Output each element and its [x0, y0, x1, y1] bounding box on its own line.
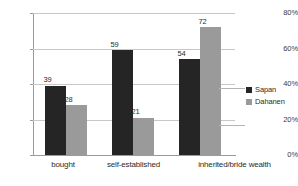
- legend-item-dahanen[interactable]: Dahanen: [246, 97, 285, 106]
- legend-leader-line-bottom: [219, 125, 245, 126]
- bar-dahanen-bought: [66, 105, 87, 155]
- legend-leader-line-top: [219, 88, 245, 89]
- bar-sapan-self-established: [112, 50, 133, 155]
- legend-label-dahanen: Dahanen: [255, 97, 285, 106]
- legend-item-sapan[interactable]: Sapan: [246, 85, 285, 94]
- legend: Sapan Dahanen: [246, 85, 285, 109]
- x-axis-line: [33, 155, 236, 156]
- bar-value-sapan-self-established: 59: [104, 41, 125, 49]
- bar-chart: 80% 60% 40% 20% 0% 39 28 59 21 54 72 bou…: [0, 0, 298, 186]
- bar-sapan-inherited: [179, 59, 200, 155]
- bar-dahanen-self-established: [133, 118, 154, 155]
- y-tick-label-60: 60%: [270, 45, 298, 53]
- bar-dahanen-inherited: [200, 27, 221, 155]
- x-tick-label-self-established: self-established: [87, 160, 180, 170]
- bar-value-dahanen-self-established: 21: [125, 108, 146, 116]
- plot-area: [33, 13, 235, 155]
- y-tick-label-80: 80%: [270, 9, 298, 17]
- gridline-80: [33, 13, 235, 14]
- bar-value-sapan-bought: 39: [37, 76, 58, 84]
- y-tick-label-0: 0%: [270, 151, 298, 159]
- legend-swatch-sapan-icon: [246, 87, 252, 93]
- bar-value-dahanen-bought: 28: [58, 96, 79, 104]
- legend-swatch-dahanen-icon: [246, 99, 252, 105]
- bar-value-sapan-inherited: 54: [171, 50, 192, 58]
- bar-value-dahanen-inherited: 72: [192, 18, 213, 26]
- x-tick-label-inherited: inherited/bride wealth: [172, 160, 297, 170]
- legend-label-sapan: Sapan: [255, 85, 276, 94]
- y-tick-label-20: 20%: [270, 116, 298, 124]
